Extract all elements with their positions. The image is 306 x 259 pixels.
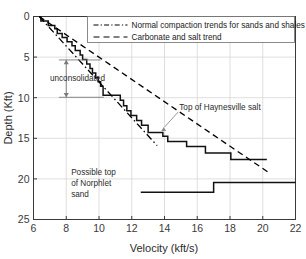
x-tick-label: 18 bbox=[224, 222, 236, 234]
velocity-depth-chart: 68101214161820220510152025 unconsolidate… bbox=[0, 0, 306, 259]
x-axis-title: Velocity (kft/s) bbox=[130, 242, 198, 254]
norphlet-label-line-1: of Norphlet bbox=[71, 179, 112, 188]
x-tick-label: 12 bbox=[126, 222, 138, 234]
x-tick-label: 20 bbox=[257, 222, 269, 234]
unconsolidated-label: unconsolidated bbox=[50, 74, 106, 83]
norphlet-label-line-2: sand bbox=[71, 190, 89, 199]
x-tick-label: 16 bbox=[191, 222, 203, 234]
y-tick-label: 10 bbox=[18, 92, 30, 104]
chart-canvas: 68101214161820220510152025 unconsolidate… bbox=[0, 0, 306, 259]
x-tick-label: 8 bbox=[63, 222, 69, 234]
x-tick-label: 22 bbox=[290, 222, 302, 234]
y-tick-label: 5 bbox=[24, 51, 30, 63]
y-tick-label: 0 bbox=[24, 10, 30, 22]
x-tick-label: 6 bbox=[31, 222, 37, 234]
y-axis-title: Depth (Kft) bbox=[2, 91, 14, 144]
norphlet-label-line-0: Possible top bbox=[71, 168, 116, 177]
legend-label-0: Normal compaction trends for sands and s… bbox=[132, 21, 305, 30]
chart-legend: Normal compaction trends for sands and s… bbox=[88, 17, 305, 43]
x-tick-label: 14 bbox=[159, 222, 171, 234]
y-tick-label: 15 bbox=[18, 132, 30, 144]
y-tick-label: 20 bbox=[18, 173, 30, 185]
y-tick-label: 25 bbox=[18, 213, 30, 225]
x-tick-label: 10 bbox=[93, 222, 105, 234]
haynesville-label: Top of Haynesville salt bbox=[179, 103, 261, 112]
legend-label-1: Carbonate and salt trend bbox=[132, 33, 223, 42]
